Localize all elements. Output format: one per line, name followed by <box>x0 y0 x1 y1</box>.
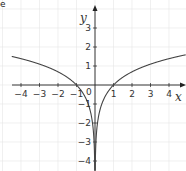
y-axis-label: y <box>79 11 87 25</box>
x-tick-label: 1 <box>111 89 117 99</box>
grid-lines <box>0 0 186 171</box>
tick-labels: −4−3−2−11234321−1−2−3−4 <box>14 23 172 166</box>
axes <box>12 5 186 171</box>
corner-mark: e <box>0 0 6 9</box>
x-axis-arrow-icon <box>180 83 186 88</box>
x-axis-label: x <box>175 90 182 104</box>
y-tick-label: 2 <box>85 42 91 52</box>
x-tick-label: −3 <box>33 89 46 99</box>
y-axis-arrow-icon <box>93 5 98 11</box>
curve-positive-x <box>95 55 185 171</box>
origin-label: 0 <box>86 87 92 97</box>
y-tick-label: 1 <box>85 61 91 71</box>
y-tick-label: −4 <box>78 156 92 166</box>
x-tick-label: 2 <box>129 89 135 99</box>
ln-abs-x-chart: −4−3−2−11234321−1−2−3−4 e y x 0 <box>0 0 186 171</box>
curve-negative-x <box>12 56 95 170</box>
x-tick-label: −4 <box>14 89 28 99</box>
x-tick-label: 4 <box>166 89 172 99</box>
y-tick-label: −2 <box>78 118 91 128</box>
x-tick-label: −2 <box>51 89 64 99</box>
x-tick-label: 3 <box>148 89 154 99</box>
x-tick-label: −1 <box>70 89 83 99</box>
function-curves <box>12 55 186 171</box>
y-tick-label: −1 <box>78 99 91 109</box>
y-tick-label: −3 <box>78 137 91 147</box>
